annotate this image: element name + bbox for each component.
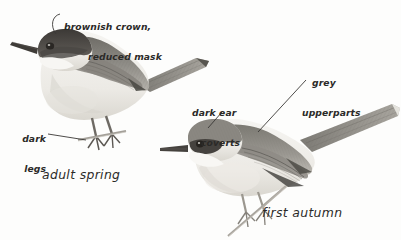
label-grey-upperparts-line1: grey — [312, 78, 361, 88]
label-dark-ear-coverts: dark ear coverts — [192, 88, 240, 168]
label-dark-legs: dark legs — [4, 114, 46, 194]
leader-upperparts — [258, 80, 306, 132]
bill-autumn — [160, 145, 188, 152]
label-grey-upperparts-line2: upperparts — [302, 108, 361, 118]
caption-first-autumn: first autumn — [262, 206, 342, 219]
perch-adult — [78, 131, 126, 140]
label-dark-legs-line2: legs — [4, 164, 46, 174]
caption-adult-spring: adult spring — [42, 168, 120, 181]
label-brownish-crown-line1: brownish crown, — [64, 22, 162, 32]
illustration-plate: brownish crown, reduced mask dark legs a… — [0, 0, 401, 240]
label-grey-upperparts: grey upperparts — [302, 58, 361, 138]
eye-adult — [46, 42, 54, 49]
legs-adult — [78, 116, 126, 150]
label-brownish-crown-line2: reduced mask — [88, 52, 162, 62]
label-brownish-crown: brownish crown, reduced mask — [64, 2, 162, 82]
leader-legs — [48, 134, 86, 140]
label-dark-ear-coverts-line2: coverts — [201, 138, 240, 148]
label-dark-ear-coverts-line1: dark ear — [192, 108, 240, 118]
label-dark-legs-line1: dark — [4, 134, 46, 144]
